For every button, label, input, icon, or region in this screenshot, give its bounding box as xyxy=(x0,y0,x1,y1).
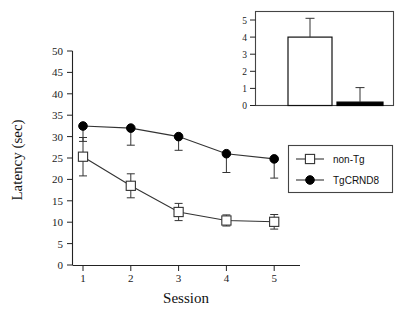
y-tick-label-10: 10 xyxy=(52,216,64,228)
x-axis-title: Session xyxy=(163,290,209,306)
y-tick-label-50: 50 xyxy=(52,45,64,57)
x-tick-label-2: 2 xyxy=(128,272,134,284)
inset-y-tick-label-1: 1 xyxy=(242,84,247,94)
y-tick-label-0: 0 xyxy=(58,259,64,271)
inset-bar-tgcrnd8 xyxy=(337,102,383,105)
y-tick-label-20: 20 xyxy=(52,173,64,185)
x-tick-label-1: 1 xyxy=(80,272,86,284)
scientific-figure: Latency (sec) 0 5 10 15 20 25 xyxy=(0,0,405,316)
y-tick-label-5: 5 xyxy=(58,238,64,250)
x-tick-label-4: 4 xyxy=(224,272,230,284)
legend: non-Tg TgCRND8 xyxy=(289,146,393,193)
filled-circle-icon xyxy=(306,176,315,185)
y-tick-label-25: 25 xyxy=(52,152,64,164)
inset-y-tick-label-0: 0 xyxy=(242,101,247,111)
legend-label-non-tg: non-Tg xyxy=(333,154,365,165)
y-tick-label-35: 35 xyxy=(52,109,64,121)
open-square-icon xyxy=(305,154,314,163)
y-tick-label-45: 45 xyxy=(52,66,64,78)
inset-y-tick-label-5: 5 xyxy=(242,16,247,26)
inset-y-tick-label-2: 2 xyxy=(242,67,247,77)
y-tick-label-40: 40 xyxy=(52,88,64,100)
inset-y-tick-label-4: 4 xyxy=(242,33,247,43)
inset-bar-non-tg xyxy=(288,37,332,105)
y-tick-label-30: 30 xyxy=(52,131,64,143)
figure-container: Latency (sec) 0 5 10 15 20 25 xyxy=(0,0,405,316)
y-tick-label-15: 15 xyxy=(52,195,64,207)
x-tick-label-3: 3 xyxy=(176,272,182,284)
inset-y-tick-label-3: 3 xyxy=(242,50,247,60)
legend-item-tgcrnd8[interactable]: TgCRND8 xyxy=(296,175,380,186)
x-tick-label-5: 5 xyxy=(271,272,277,284)
y-axis-title: Latency (sec) xyxy=(9,119,26,200)
legend-label-tgcrnd8: TgCRND8 xyxy=(333,175,380,186)
